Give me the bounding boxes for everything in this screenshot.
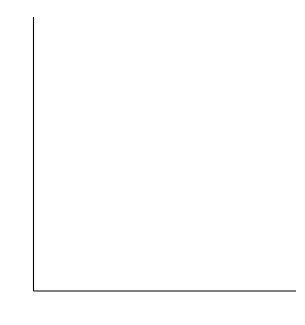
chart-svg [0, 0, 305, 325]
log-log-chart-figure [0, 0, 305, 325]
chart-background [0, 0, 305, 325]
